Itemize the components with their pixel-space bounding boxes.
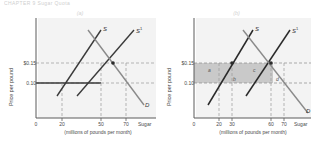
panel-b-region-b: b bbox=[233, 76, 236, 82]
panel-a-xtick-20: 20 bbox=[54, 121, 70, 127]
panel-a-curve-label-d: D bbox=[145, 102, 149, 108]
panel-b-curve-label-s: S bbox=[255, 26, 259, 32]
panel-b-region-a: a bbox=[208, 67, 211, 73]
panel-a-x-axis-name: Sugar bbox=[138, 121, 151, 127]
panel-a-xtick-50: 50 bbox=[93, 121, 109, 127]
panel-b-xtick-30: 30 bbox=[224, 121, 240, 127]
panel-a-xtick-70: 70 bbox=[118, 121, 134, 127]
panel-b-xtick-70: 70 bbox=[276, 121, 292, 127]
panel-b-x-axis-units: (millions of pounds per month) bbox=[194, 129, 312, 135]
panel-b-origin-label: 0 bbox=[186, 121, 202, 127]
chart-panel-a: (a) Price per pound $0.15 0.10 S S1 D 0 … bbox=[0, 8, 160, 155]
panel-b-region-d: d bbox=[276, 76, 279, 82]
page-header-strip: CHAPTER 9 Sugar Quota bbox=[4, 0, 124, 7]
panel-a-origin-label: 0 bbox=[28, 121, 44, 127]
panel-b-curve-label-d: D bbox=[306, 108, 310, 114]
panel-b-x-axis-name: Sugar bbox=[294, 121, 307, 127]
panel-b-region-c: c bbox=[253, 67, 256, 73]
chart-panel-b: (b) Price per pound $0.15 0.10 a b bbox=[158, 8, 315, 155]
panel-a-curve-label-s-prime: S1 bbox=[136, 26, 142, 34]
panel-b-curve-label-s-prime: S1 bbox=[292, 26, 298, 34]
panel-a-x-axis-units: (millions of pounds per month) bbox=[38, 129, 158, 135]
panel-a-curve-label-s: S bbox=[103, 26, 107, 32]
